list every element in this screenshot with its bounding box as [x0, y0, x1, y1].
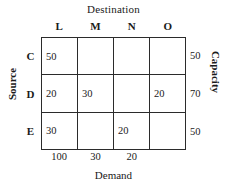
column-header-m: M — [77, 20, 113, 32]
row-header-column: C D E — [23, 37, 38, 150]
capacity-value-e: 50 — [190, 112, 210, 150]
capacity-value-d: 70 — [190, 75, 210, 113]
cell-e-m[interactable] — [78, 113, 114, 149]
cell-d-n[interactable] — [114, 75, 150, 111]
cell-e-o[interactable] — [150, 113, 185, 149]
row-header-d: D — [23, 75, 38, 113]
column-header-l: L — [41, 20, 77, 32]
cell-e-n[interactable]: 20 — [114, 113, 150, 149]
demand-value-n: 20 — [114, 151, 150, 162]
column-header-n: N — [114, 20, 150, 32]
table-row: 20 30 20 — [42, 75, 185, 112]
cell-c-o[interactable] — [150, 38, 185, 74]
demand-value-l: 100 — [41, 151, 77, 162]
cell-c-m[interactable] — [78, 38, 114, 74]
capacity-axis-title: Capacity — [210, 41, 222, 103]
demand-value-m: 30 — [77, 151, 113, 162]
cell-c-l[interactable]: 50 — [42, 38, 78, 74]
cell-d-o[interactable]: 20 — [150, 75, 185, 111]
column-header-row: L M N O — [41, 20, 186, 32]
column-header-o: O — [150, 20, 186, 32]
capacity-value-c: 50 — [190, 37, 210, 75]
cell-c-n[interactable] — [114, 38, 150, 74]
cell-d-l[interactable]: 20 — [42, 75, 78, 111]
source-axis-title: Source — [6, 56, 18, 112]
demand-value-o — [150, 151, 186, 162]
row-header-c: C — [23, 37, 38, 75]
table-row: 30 20 — [42, 113, 185, 149]
destination-axis-title: Destination — [41, 3, 186, 15]
demand-axis-title: Demand — [41, 169, 186, 181]
row-header-e: E — [23, 112, 38, 150]
transportation-tableau-grid: 50 20 30 20 30 20 — [41, 37, 186, 150]
cell-d-m[interactable]: 30 — [78, 75, 114, 111]
demand-value-row: 100 30 20 — [41, 151, 186, 162]
capacity-value-column: 50 70 50 — [190, 37, 210, 150]
table-row: 50 — [42, 38, 185, 75]
cell-e-l[interactable]: 30 — [42, 113, 78, 149]
